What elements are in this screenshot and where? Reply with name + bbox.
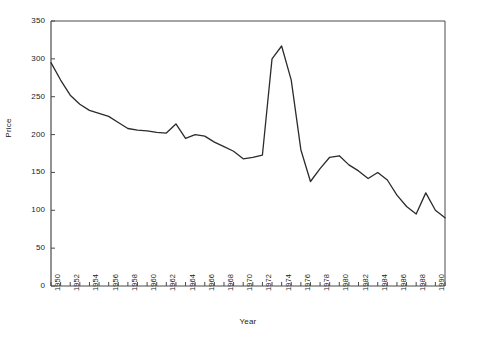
axes bbox=[51, 21, 445, 286]
tick-marks bbox=[51, 21, 445, 286]
price-series-line bbox=[51, 46, 445, 218]
plot-area bbox=[0, 0, 496, 339]
price-by-year-line-chart: Price Year 050100150200250300350 1950195… bbox=[0, 0, 496, 339]
